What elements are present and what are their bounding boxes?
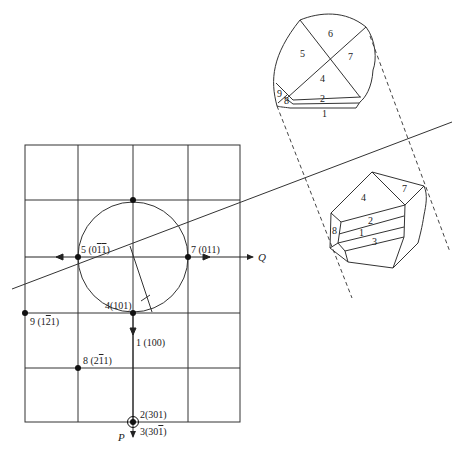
- pole-9-point: [22, 310, 28, 316]
- dashed-line-left: [277, 106, 352, 298]
- pole-3-label: 3(301): [140, 426, 167, 438]
- bottom-face-3: 3: [372, 236, 377, 247]
- dashed-line-right: [370, 36, 450, 252]
- top-face-4: 4: [320, 73, 325, 84]
- top-face-1: 1: [322, 108, 327, 119]
- pole-6-point: [130, 197, 136, 203]
- pole-1-label: 1 (100): [136, 337, 165, 349]
- projection-dashes: [277, 36, 450, 298]
- pole-8-label: 8 (211): [83, 355, 112, 367]
- bottom-face-7: 7: [402, 183, 407, 194]
- top-face-6: 6: [328, 28, 333, 39]
- radius-tick: [141, 295, 150, 301]
- top-face-7: 7: [348, 51, 353, 62]
- down-arrow-icon: [130, 328, 136, 335]
- bottom-crystal: [330, 172, 426, 268]
- pole-7-label: 7 (011): [191, 244, 220, 256]
- top-face-9: 9: [277, 88, 282, 99]
- bottom-face-4: 4: [361, 192, 366, 203]
- bottom-face-8: 8: [332, 225, 337, 236]
- p-axis-label: P: [117, 431, 125, 443]
- top-face-2: 2: [320, 93, 325, 104]
- bottom-crystal-outline: [330, 172, 426, 268]
- q-axis-label: Q: [258, 251, 266, 263]
- bottom-crystal-face-labels: 4 7 8 2 1 3: [332, 183, 407, 247]
- poles: [22, 197, 191, 428]
- top-face-8: 8: [284, 95, 289, 106]
- pole-8-point: [75, 365, 81, 371]
- pole-5-label: 5 (011): [81, 244, 110, 256]
- pole-2-point: [130, 419, 136, 425]
- bottom-face-2: 2: [368, 215, 373, 226]
- p-axis: [130, 313, 136, 437]
- left-arrow-icon: [56, 254, 63, 260]
- pole-9-label: 9 (121): [30, 316, 59, 328]
- bottom-face-1: 1: [359, 227, 364, 238]
- top-face-5: 5: [300, 48, 305, 59]
- diagram-canvas: Q P 5 (011) 7 (011) 4(101) 1 (100) 9 (12…: [0, 0, 463, 454]
- pole-4-label: 4(101): [105, 300, 132, 312]
- pole-2-label: 2(301): [140, 409, 167, 421]
